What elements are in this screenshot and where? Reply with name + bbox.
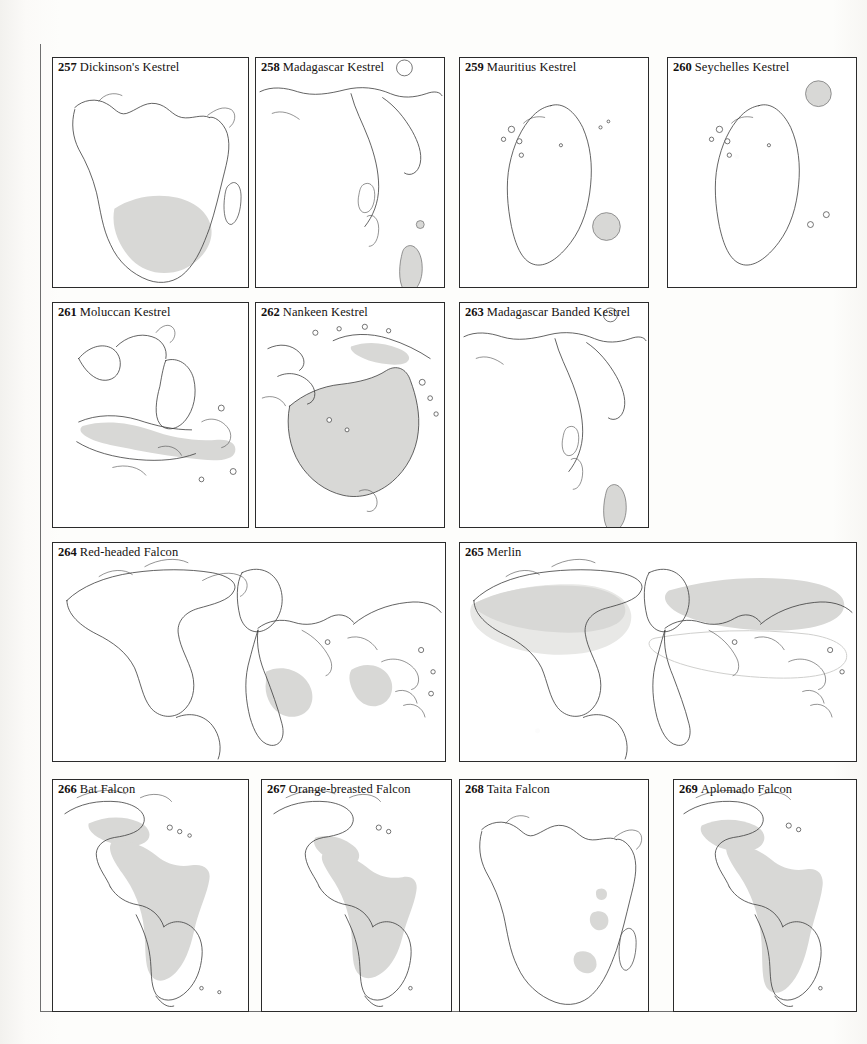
panel-number: 257 (58, 60, 77, 74)
panel-caption-261: 261Moluccan Kestrel (58, 305, 171, 319)
scanned-page: 257Dickinson's Kestrel 258Madagascar Kes… (0, 0, 867, 1044)
panel-species-name: Madagascar Kestrel (283, 60, 384, 74)
map-panel-264[interactable]: 264Red-headed Falcon (52, 542, 446, 762)
panel-species-name: Mauritius Kestrel (487, 60, 577, 74)
map-panel-266[interactable]: 266Bat Falcon (52, 779, 249, 1012)
map-panel-269[interactable]: 269Aplomado Falcon (673, 779, 857, 1012)
panel-caption-260: 260Seychelles Kestrel (673, 60, 789, 74)
map-panel-263[interactable]: 263Madagascar Banded Kestrel (459, 302, 649, 528)
panel-caption-269: 269Aplomado Falcon (679, 782, 792, 796)
panel-number: 269 (679, 782, 698, 796)
panel-caption-264: 264Red-headed Falcon (58, 545, 178, 559)
panel-number: 263 (465, 305, 484, 319)
panel-number: 262 (261, 305, 280, 319)
panel-number: 268 (465, 782, 484, 796)
panel-number: 259 (465, 60, 484, 74)
panel-caption-265: 265Merlin (465, 545, 521, 559)
panel-number: 264 (58, 545, 77, 559)
map-panel-267[interactable]: 267Orange-breasted Falcon (261, 779, 452, 1012)
panel-species-name: Aplomado Falcon (701, 782, 792, 796)
panel-species-name: Bat Falcon (80, 782, 136, 796)
panel-species-name: Madagascar Banded Kestrel (487, 305, 630, 319)
map-panel-258[interactable]: 258Madagascar Kestrel (255, 57, 445, 288)
panel-number: 260 (673, 60, 692, 74)
map-panel-259[interactable]: 259Mauritius Kestrel (459, 57, 649, 288)
panel-caption-259: 259Mauritius Kestrel (465, 60, 576, 74)
page-gutter-rule (40, 44, 41, 1012)
panel-number: 266 (58, 782, 77, 796)
panel-species-name: Seychelles Kestrel (695, 60, 789, 74)
panel-species-name: Moluccan Kestrel (80, 305, 171, 319)
panel-caption-262: 262Nankeen Kestrel (261, 305, 368, 319)
panel-caption-268: 268Taita Falcon (465, 782, 550, 796)
panel-number: 267 (267, 782, 286, 796)
map-panel-262[interactable]: 262Nankeen Kestrel (255, 302, 445, 528)
panel-number: 265 (465, 545, 484, 559)
panel-species-name: Dickinson's Kestrel (80, 60, 180, 74)
map-panel-265[interactable]: 265Merlin (459, 542, 857, 762)
panel-species-name: Red-headed Falcon (80, 545, 179, 559)
map-panel-261[interactable]: 261Moluccan Kestrel (52, 302, 249, 528)
panel-caption-258: 258Madagascar Kestrel (261, 60, 384, 74)
panel-number: 258 (261, 60, 280, 74)
panel-species-name: Merlin (487, 545, 522, 559)
panel-caption-257: 257Dickinson's Kestrel (58, 60, 179, 74)
map-panel-257[interactable]: 257Dickinson's Kestrel (52, 57, 249, 288)
panel-species-name: Nankeen Kestrel (283, 305, 368, 319)
panel-species-name: Taita Falcon (487, 782, 550, 796)
map-panel-268[interactable]: 268Taita Falcon (459, 779, 649, 1012)
panel-number: 261 (58, 305, 77, 319)
panel-species-name: Orange-breasted Falcon (289, 782, 411, 796)
panel-caption-263: 263Madagascar Banded Kestrel (465, 305, 630, 319)
map-panel-260[interactable]: 260Seychelles Kestrel (667, 57, 857, 288)
panel-caption-266: 266Bat Falcon (58, 782, 135, 796)
panel-caption-267: 267Orange-breasted Falcon (267, 782, 411, 796)
